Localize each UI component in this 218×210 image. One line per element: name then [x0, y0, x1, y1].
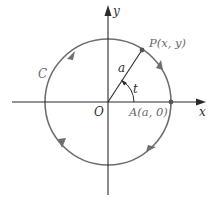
point-a-label: A(a, 0): [128, 105, 168, 119]
curve-label: C: [38, 67, 47, 81]
point-p-label: P(x, y): [148, 36, 186, 50]
point-p-marker: [140, 48, 145, 53]
origin-label: O: [94, 105, 104, 119]
point-a-marker: [169, 100, 174, 105]
angle-arrow-icon: [121, 80, 127, 86]
angle-label: t: [133, 82, 138, 96]
y-axis-arrow-icon: [105, 5, 112, 16]
unit-circle-diagram: y x O P(x, y) A(a, 0) C a t: [0, 0, 218, 210]
diagram-canvas: y x O P(x, y) A(a, 0) C a t: [0, 0, 218, 210]
radius-label: a: [118, 61, 125, 75]
circle-arrow-icon-lower-right: [146, 145, 156, 152]
y-axis-label: y: [112, 4, 120, 18]
x-axis-label: x: [199, 105, 206, 119]
